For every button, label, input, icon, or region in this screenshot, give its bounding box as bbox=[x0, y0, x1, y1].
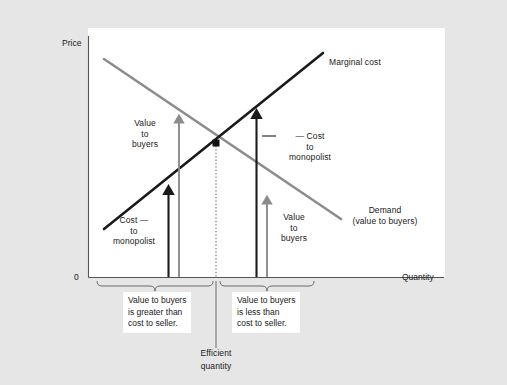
origin-label: 0 bbox=[74, 272, 79, 282]
figure-root: Price Quantity 0 Marginal cost Demand (v… bbox=[0, 0, 507, 385]
y-axis-label: Price bbox=[62, 38, 81, 48]
equilibrium-point bbox=[213, 140, 220, 147]
efficient-quantity-label-line2: quantity bbox=[176, 361, 256, 372]
demand-label-line1: Demand bbox=[333, 205, 437, 216]
right-cost-to-monopolist-label: — Cost to monopolist bbox=[276, 131, 344, 163]
x-axis-label: Quantity bbox=[402, 272, 434, 282]
efficient-quantity-label-line1: Efficient bbox=[176, 348, 256, 359]
right-bracket-caption: Value to buyers is less than cost to sel… bbox=[232, 292, 300, 333]
left-cost-to-monopolist-label: Cost — to monopolist bbox=[100, 215, 168, 247]
left-value-to-buyers-label: Value to buyers bbox=[122, 118, 168, 150]
demand-label-line2: (value to buyers) bbox=[333, 216, 437, 227]
left-bracket-caption: Value to buyers is greater than cost to … bbox=[123, 292, 191, 333]
right-bracket bbox=[220, 281, 314, 291]
left-bracket bbox=[97, 281, 213, 291]
right-value-to-buyers-label: Value to buyers bbox=[271, 212, 317, 244]
marginal-cost-label: Marginal cost bbox=[329, 57, 381, 68]
